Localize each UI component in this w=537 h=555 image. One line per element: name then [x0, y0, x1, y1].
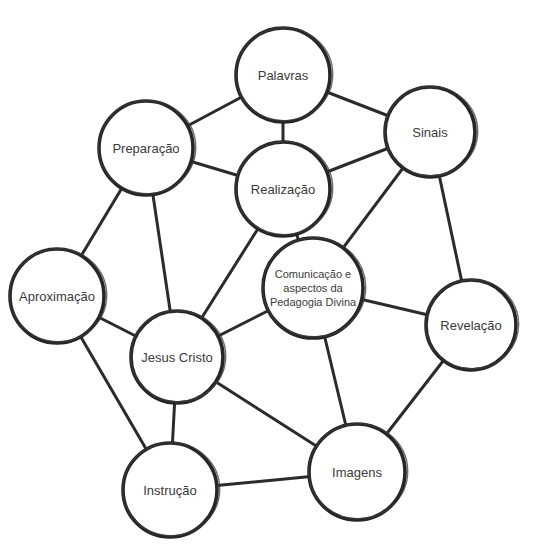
node-realizacao[interactable] [236, 142, 333, 236]
node-instrucao[interactable] [123, 443, 220, 537]
node-aproximacao[interactable] [10, 249, 107, 343]
concept-network-diagram [0, 0, 537, 555]
node-preparacao[interactable] [99, 101, 196, 195]
node-palavras[interactable] [236, 28, 333, 122]
node-sinais[interactable] [385, 87, 478, 177]
node-revelacao[interactable] [426, 280, 519, 370]
node-imagens[interactable] [309, 424, 408, 520]
node-comunicacao[interactable] [263, 238, 366, 338]
node-jesus_cristo[interactable] [131, 311, 226, 403]
nodes-layer [10, 28, 519, 537]
